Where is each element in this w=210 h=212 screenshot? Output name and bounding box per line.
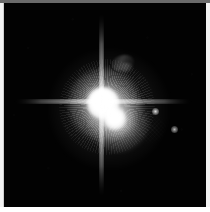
image-viewport	[0, 0, 210, 212]
night-sky-field	[4, 3, 206, 207]
detector-checkerboard-artifact	[120, 111, 168, 145]
frame-bottom-edge	[0, 207, 210, 212]
background-detector-noise	[4, 3, 206, 207]
